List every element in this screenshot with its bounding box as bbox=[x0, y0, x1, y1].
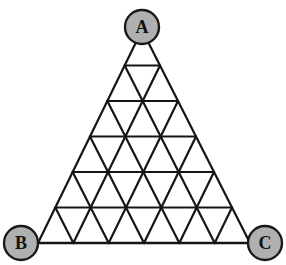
lattice-diagonal-left bbox=[73, 66, 160, 244]
lattice-diagonal-left bbox=[215, 208, 232, 244]
lattice-diagonal-right bbox=[55, 208, 73, 244]
triangular-lattice-diagram: ABC bbox=[0, 0, 286, 265]
figure-container: ABC bbox=[0, 0, 286, 265]
node-a[interactable]: A bbox=[125, 10, 159, 44]
lattice-diagonal-right bbox=[125, 66, 215, 244]
lattice-lines-group bbox=[38, 30, 250, 243]
node-c[interactable]: C bbox=[248, 226, 282, 260]
node-c-label: C bbox=[259, 233, 272, 253]
node-b[interactable]: B bbox=[4, 226, 38, 260]
node-b-label: B bbox=[15, 233, 27, 253]
node-a-label: A bbox=[136, 17, 149, 37]
